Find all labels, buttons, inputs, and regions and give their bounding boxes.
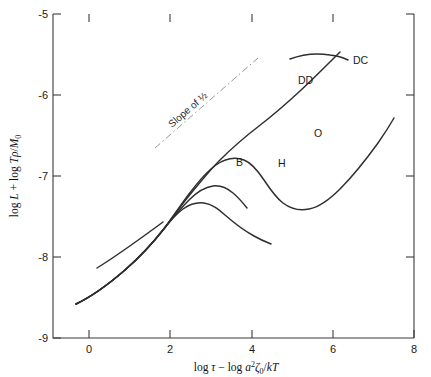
y-tick-label-minus9: -9 (38, 332, 48, 344)
y-tick-label-minus5: -5 (38, 8, 48, 20)
y-tick-label-minus6: -6 (38, 89, 48, 101)
x-tick-label-8: 8 (411, 343, 417, 355)
x-tick-label-4: 4 (249, 343, 255, 355)
figure-container: -5 -6 -7 -8 -9 0 2 4 6 8 log τ − log a2ζ… (0, 0, 431, 377)
curve-label-DC: DC (353, 54, 369, 66)
y-tick-label-minus8: -8 (38, 251, 48, 263)
curve-label-O: O (314, 127, 322, 139)
curve-label-B: B (236, 156, 243, 168)
x-tick-label-0: 0 (86, 343, 92, 355)
scientific-line-chart: -5 -6 -7 -8 -9 0 2 4 6 8 log τ − log a2ζ… (0, 0, 431, 377)
curve-label-H: H (278, 157, 286, 169)
x-tick-label-2: 2 (167, 343, 173, 355)
y-tick-label-minus7: -7 (38, 170, 48, 182)
x-tick-label-6: 6 (330, 343, 336, 355)
curve-label-DD: DD (298, 74, 314, 86)
